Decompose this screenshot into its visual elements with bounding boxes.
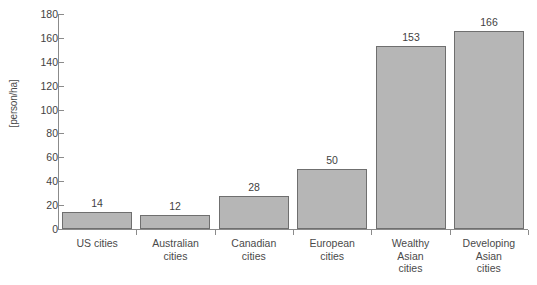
x-axis-tick <box>293 230 294 235</box>
y-axis-tick-label-wrap: 100 <box>0 105 58 115</box>
x-axis-tick <box>450 230 451 235</box>
y-axis-tick-label: 0 <box>24 224 58 234</box>
y-axis-tick <box>58 133 64 134</box>
bar <box>297 169 367 229</box>
y-axis-tick-label-wrap: 80 <box>0 128 58 138</box>
y-axis-tick-label-wrap: 140 <box>0 57 58 67</box>
category-label-line: cities <box>434 262 537 275</box>
y-axis-tick <box>58 157 64 158</box>
category-label-line: Developing <box>434 237 537 250</box>
y-axis-tick <box>58 62 64 63</box>
y-axis-tick-label: 180 <box>24 9 58 19</box>
y-axis-tick-label: 160 <box>24 33 58 43</box>
y-axis-tick-label-wrap: 160 <box>0 33 58 43</box>
x-axis-tick <box>136 230 137 235</box>
y-axis-tick-label: 60 <box>24 152 58 162</box>
bar-value-label: 28 <box>199 182 309 193</box>
bar <box>62 212 132 229</box>
y-axis-tick-label: 120 <box>24 81 58 91</box>
y-axis-tick-label: 40 <box>24 176 58 186</box>
category-label-line: Asian <box>434 250 537 263</box>
bar-value-label: 153 <box>356 32 466 43</box>
y-axis-tick <box>58 86 64 87</box>
y-axis-tick-label-wrap: 40 <box>0 176 58 186</box>
bar <box>376 46 446 229</box>
x-axis-tick <box>528 230 529 235</box>
y-axis-tick <box>58 38 64 39</box>
category-label: DevelopingAsiancities <box>434 237 537 275</box>
x-axis-tick <box>371 230 372 235</box>
y-axis-tick-label-wrap: 180 <box>0 9 58 19</box>
y-axis-tick-label-wrap: 60 <box>0 152 58 162</box>
bar <box>219 196 289 229</box>
bar <box>454 31 524 229</box>
y-axis-tick-label-wrap: 120 <box>0 81 58 91</box>
bar <box>140 215 210 229</box>
y-axis-tick-label: 140 <box>24 57 58 67</box>
bar-chart: [person/ha] 020406080100120140160180 141… <box>0 0 537 285</box>
bar-value-label: 166 <box>434 17 537 28</box>
x-axis-tick <box>215 230 216 235</box>
y-axis-line <box>58 14 59 229</box>
bar-value-label: 50 <box>277 155 387 166</box>
y-axis-tick <box>58 229 64 230</box>
y-axis-tick <box>58 110 64 111</box>
y-axis-tick-label: 80 <box>24 128 58 138</box>
bar-value-label: 12 <box>120 201 230 212</box>
y-axis-tick <box>58 181 64 182</box>
y-axis-tick-label: 100 <box>24 105 58 115</box>
y-axis-tick-label-wrap: 0 <box>0 224 58 234</box>
y-axis-tick <box>58 14 64 15</box>
